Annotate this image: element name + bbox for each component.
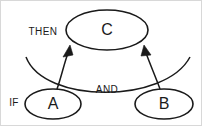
then-label: THEN [29,26,58,37]
and-label: AND [96,84,118,95]
if-label: IF [9,97,19,108]
arrowhead-a-to-c [63,45,73,57]
edge-b-to-c [146,53,160,89]
diagram-canvas: C A B IF THEN AND [0,0,202,126]
node-b-label: B [159,95,170,112]
node-a-label: A [48,95,59,112]
rule-diagram: C A B IF THEN AND [0,0,202,126]
arrowhead-b-to-c [141,45,151,56]
node-c-label: C [101,21,113,38]
edge-a-to-c [57,53,68,89]
